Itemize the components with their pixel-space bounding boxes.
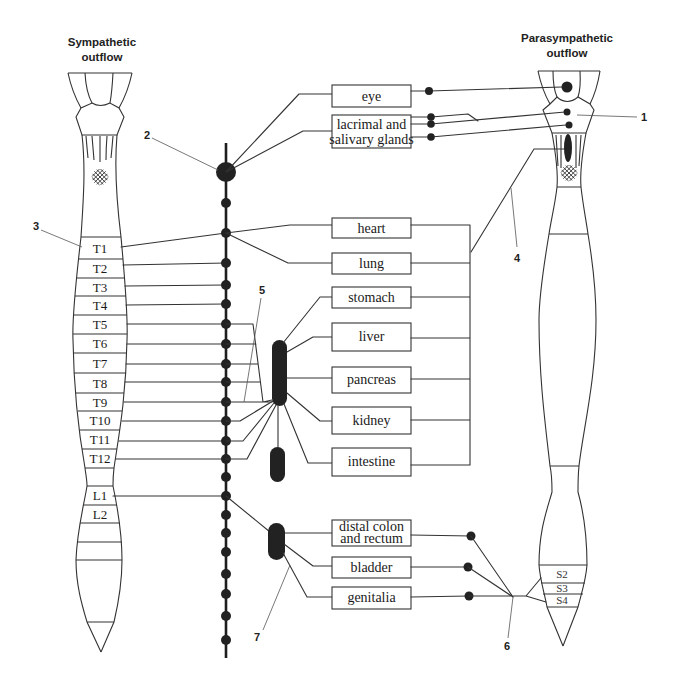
- organ-box-stomach: stomach: [332, 287, 411, 308]
- organ-label-pancreas: pancreas: [347, 372, 396, 387]
- callout-label-1: 1: [641, 111, 647, 123]
- oculomotor-nerve: [411, 87, 562, 91]
- vagus-nerve: [471, 149, 564, 252]
- left-rootlets: [86, 136, 113, 162]
- organ-label-eye: eye: [362, 89, 381, 104]
- organ-label-lacrimal-line2: salivary glands: [329, 132, 413, 147]
- greater-splanchnic-nerve: [226, 324, 272, 402]
- pelvic-postganglionic-lines: [411, 535, 471, 597]
- sympathetic-heart-nerve: [226, 225, 332, 233]
- organ-box-heart: heart: [332, 218, 411, 238]
- sympathetic-chain: [216, 143, 236, 658]
- segment-label-s2: S2: [556, 568, 568, 580]
- organ-box-bladder: bladder: [332, 557, 411, 578]
- hypogastric-ganglion: [268, 523, 285, 560]
- segment-label-l2: L2: [93, 507, 107, 522]
- segment-label-t6: T6: [93, 336, 108, 351]
- otic-ganglion: [427, 133, 435, 141]
- pterygopalatine-ganglion: [427, 113, 435, 121]
- pelvic-organ-nerves: [283, 533, 332, 597]
- submandibular-ganglion: [427, 120, 435, 128]
- organ-box-genitalia: genitalia: [332, 587, 411, 609]
- callout-label-6: 6: [504, 640, 510, 652]
- organ-box-pancreas: pancreas: [332, 367, 411, 393]
- segment-label-t1: T1: [93, 241, 107, 256]
- sympathetic-eye-nerve: [226, 94, 332, 172]
- organ-box-eye: eye: [332, 85, 411, 107]
- sympathetic-title: Sympathetic outflow: [68, 36, 137, 63]
- callout-label-4: 4: [514, 252, 521, 264]
- pelvic-splanchnic-nerves: [411, 532, 546, 603]
- parasympathetic-title-line1: Parasympathetic: [521, 32, 614, 44]
- callout-6: 6: [504, 597, 513, 652]
- segment-label-t2: T2: [93, 261, 107, 276]
- callout-label-2: 2: [144, 129, 150, 141]
- segment-label-t8: T8: [93, 376, 107, 391]
- organ-box-distal-colon: distal colon and rectum: [332, 519, 411, 546]
- organ-label-kidney: kidney: [352, 413, 390, 428]
- callout-3: 3: [33, 220, 82, 247]
- segment-label-t10: T10: [90, 413, 111, 428]
- left-medulla: [76, 103, 124, 135]
- segment-label-t5: T5: [93, 317, 107, 332]
- organ-label-stomach: stomach: [348, 290, 395, 305]
- sympathetic-spinal-cord: T1 T2 T3 T4 T5 T6 T7 T8 T9 T10 T11 T12 L…: [68, 73, 132, 652]
- right-cord-outline-right: [563, 187, 596, 646]
- organ-box-lung: lung: [332, 253, 411, 274]
- right-segment-dividers: [539, 234, 588, 607]
- organ-label-lung: lung: [359, 256, 384, 271]
- sympathetic-title-line1: Sympathetic: [68, 36, 137, 48]
- white-rami-lines: [113, 233, 226, 496]
- organ-box-lacrimal-salivary: lacrimal and salivary glands: [329, 115, 413, 148]
- sympathetic-lung-nerve: [226, 233, 332, 263]
- left-midbrain: [68, 73, 132, 108]
- organ-label-intestine: intestine: [348, 454, 395, 469]
- organ-box-kidney: kidney: [332, 407, 411, 434]
- segment-label-l1: L1: [93, 488, 107, 503]
- facial-nerve-branch-upper: [411, 114, 478, 121]
- sympathetic-title-line2: outflow: [82, 51, 123, 63]
- organ-box-liver: liver: [332, 323, 411, 351]
- celiac-organ-nerves: [283, 297, 332, 463]
- organ-label-heart: heart: [358, 221, 386, 236]
- callout-5: 5: [244, 284, 265, 402]
- parasympathetic-spinal-cord: S2 S3 S4: [538, 71, 600, 646]
- callout-2: 2: [144, 129, 218, 170]
- callout-1: 1: [577, 111, 647, 123]
- lesser-splanchnic-nerves: [226, 401, 276, 459]
- segment-label-s4: S4: [556, 594, 568, 606]
- callout-7: 7: [254, 565, 290, 643]
- organ-label-genitalia: genitalia: [347, 590, 396, 605]
- segment-label-t4: T4: [93, 298, 108, 313]
- organ-label-distal-colon-line2: and rectum: [340, 531, 403, 546]
- segment-label-t3: T3: [93, 280, 107, 295]
- sympathetic-lacrimal-nerve: [226, 131, 332, 172]
- vagus-organ-bracket: [411, 225, 470, 465]
- autonomic-nervous-system-diagram: Sympathetic outflow Parasympathetic outf…: [0, 0, 677, 688]
- organ-label-bladder: bladder: [351, 560, 393, 575]
- parasympathetic-title: Parasympathetic outflow: [521, 32, 614, 59]
- edinger-westphal-nucleus: [562, 82, 573, 93]
- callout-label-7: 7: [254, 631, 260, 643]
- lumbar-splanchnic-nerve: [226, 496, 270, 532]
- parasympathetic-cranial-nerves: [411, 87, 566, 141]
- callout-label-5: 5: [259, 284, 265, 296]
- celiac-ganglion: [272, 340, 287, 406]
- segment-label-s3: S3: [556, 582, 568, 594]
- organ-label-liver: liver: [359, 329, 385, 344]
- salivatory-nucleus-superior: [564, 109, 571, 116]
- segment-label-t7: T7: [93, 356, 108, 371]
- organ-label-lacrimal-line1: lacrimal and: [337, 117, 407, 132]
- dorsal-vagal-nucleus: [564, 134, 572, 162]
- ciliary-ganglion: [425, 87, 433, 95]
- inferior-mesenteric-ganglion: [270, 447, 285, 482]
- segment-label-t9: T9: [93, 395, 107, 410]
- organ-box-intestine: intestine: [332, 448, 411, 476]
- callout-label-3: 3: [33, 220, 39, 232]
- callout-4: 4: [511, 188, 521, 264]
- left-crosshatch-nucleus: [92, 169, 108, 185]
- parasympathetic-title-line2: outflow: [547, 47, 588, 59]
- salivatory-nucleus-inferior: [566, 122, 573, 129]
- segment-label-t11: T11: [90, 432, 110, 447]
- pelvic-preganglionic-lines: [468, 536, 546, 602]
